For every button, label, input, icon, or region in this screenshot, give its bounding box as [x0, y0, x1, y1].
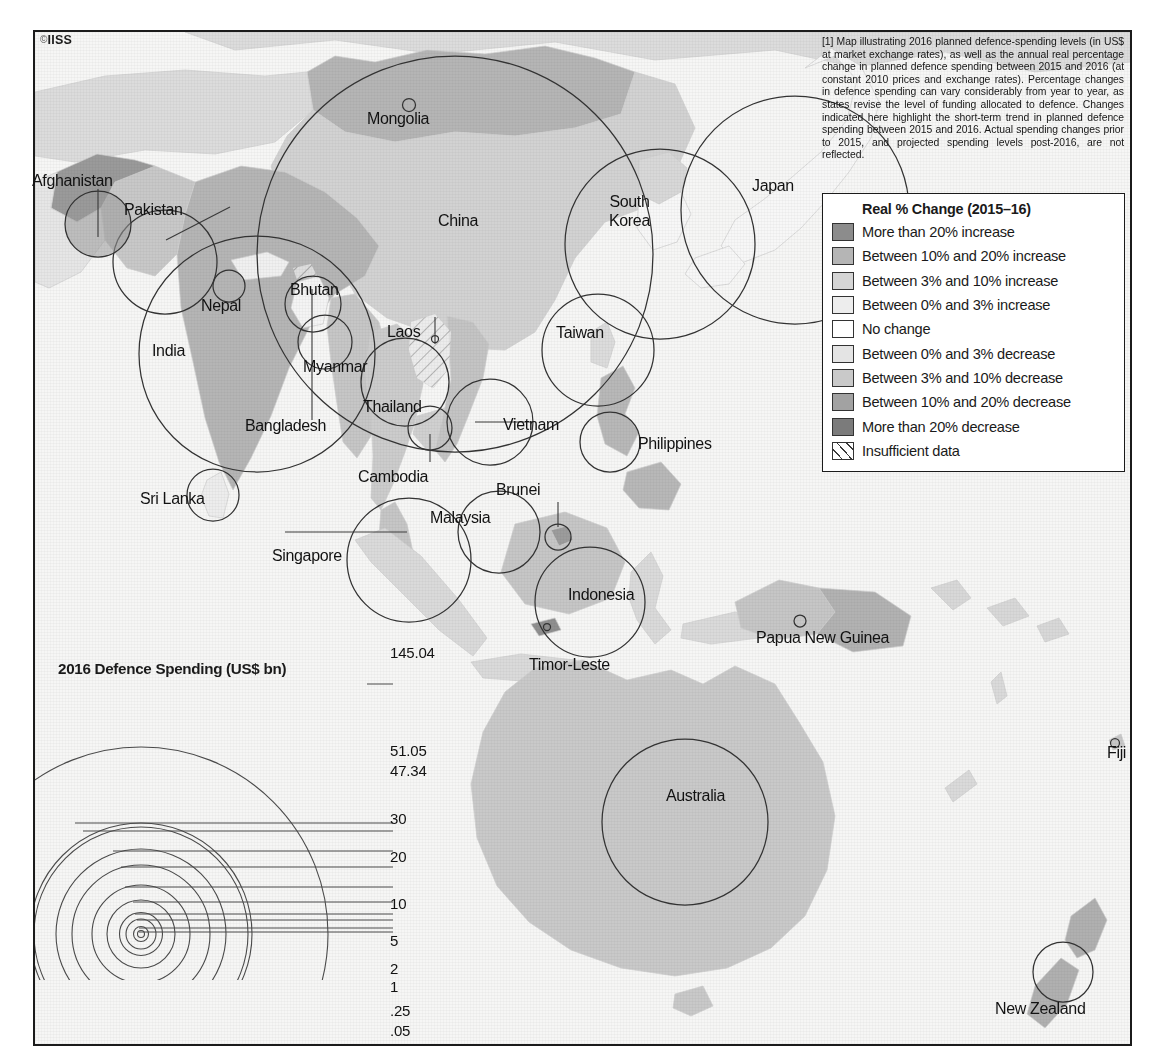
map-page: ©IISS [1] Map illustrating 2016 planned … — [0, 0, 1149, 1054]
country-label-australia: Australia — [666, 787, 725, 805]
map-frame — [33, 30, 1132, 1046]
country-label-south-korea-text: SouthKorea — [609, 193, 650, 229]
legend-label-3: Between 0% and 3% increase — [862, 297, 1050, 313]
country-label-laos: Laos — [387, 323, 420, 341]
country-label-japan: Japan — [752, 177, 794, 195]
country-label-singapore: Singapore — [272, 547, 342, 565]
scale-label-2: 2 — [390, 960, 398, 977]
legend-label-5: Between 0% and 3% decrease — [862, 346, 1055, 362]
country-label-brunei: Brunei — [496, 481, 540, 499]
legend-swatch-3 — [832, 296, 854, 314]
legend-row: Between 3% and 10% increase — [832, 269, 1115, 293]
country-label-nepal: Nepal — [201, 297, 241, 315]
scale-label-47: 47.34 — [390, 762, 427, 779]
country-label-timor-leste: Timor-Leste — [529, 656, 610, 674]
scale-label-1: 1 — [390, 978, 398, 995]
scale-label-005: .05 — [390, 1022, 410, 1039]
legend-rows: More than 20% increaseBetween 10% and 20… — [832, 220, 1115, 463]
country-label-taiwan: Taiwan — [556, 324, 604, 342]
legend-swatch-8 — [832, 418, 854, 436]
scale-circle-47 — [35, 827, 248, 980]
scale-key-title: 2016 Defence Spending (US$ bn) — [58, 660, 286, 677]
country-label-mongolia: Mongolia — [367, 110, 429, 128]
scale-label-20: 20 — [390, 848, 406, 865]
scale-circle-5 — [107, 900, 175, 968]
country-label-bangladesh: Bangladesh — [245, 417, 326, 435]
country-label-pakistan: Pakistan — [124, 201, 183, 219]
country-label-sri-lanka: Sri Lanka — [140, 490, 204, 508]
legend-row: Between 0% and 3% decrease — [832, 341, 1115, 365]
country-label-south-korea: SouthKorea — [609, 193, 650, 230]
change-legend: Real % Change (2015–16) More than 20% in… — [822, 193, 1125, 472]
copyright-icon: © — [40, 34, 48, 45]
country-label-afghanistan: Afghanistan — [32, 172, 113, 190]
legend-row: Between 10% and 20% decrease — [832, 390, 1115, 414]
country-label-cambodia: Cambodia — [358, 468, 428, 486]
map-footnote: [1] Map illustrating 2016 planned defenc… — [822, 36, 1124, 162]
scale-circle-1 — [126, 919, 156, 949]
legend-row: Between 10% and 20% increase — [832, 244, 1115, 268]
country-label-bhutan: Bhutan — [290, 281, 339, 299]
country-label-china: China — [438, 212, 478, 230]
legend-label-1: Between 10% and 20% increase — [862, 248, 1066, 264]
credit-text: IISS — [48, 33, 72, 47]
legend-row: Insufficient data — [832, 439, 1115, 463]
scale-label-5: 5 — [390, 932, 398, 949]
scale-label-025: .25 — [390, 1002, 410, 1019]
country-label-new-zealand: New Zealand — [995, 1000, 1085, 1018]
scale-tick-lines — [75, 684, 393, 932]
legend-row: No change — [832, 317, 1115, 341]
scale-label-30: 30 — [390, 810, 406, 827]
country-label-india: India — [152, 342, 185, 360]
scale-label-51: 51.05 — [390, 742, 427, 759]
legend-row: More than 20% decrease — [832, 414, 1115, 438]
scale-label-10: 10 — [390, 895, 406, 912]
legend-swatch-9 — [832, 442, 854, 460]
legend-swatch-1 — [832, 247, 854, 265]
legend-swatch-7 — [832, 393, 854, 411]
legend-title: Real % Change (2015–16) — [862, 201, 1115, 217]
legend-label-8: More than 20% decrease — [862, 419, 1020, 435]
scale-circle-20 — [72, 865, 210, 980]
country-label-fiji: Fiji — [1107, 744, 1126, 762]
country-label-malaysia: Malaysia — [430, 509, 490, 527]
legend-swatch-5 — [832, 345, 854, 363]
scale-circle-025 — [134, 927, 149, 942]
scale-label-145: 145.04 — [390, 644, 435, 661]
legend-swatch-4 — [832, 320, 854, 338]
legend-swatch-0 — [832, 223, 854, 241]
legend-swatch-6 — [832, 369, 854, 387]
country-label-myanmar: Myanmar — [303, 358, 367, 376]
legend-row: Between 3% and 10% decrease — [832, 366, 1115, 390]
legend-row: Between 0% and 3% increase — [832, 293, 1115, 317]
legend-label-4: No change — [862, 321, 930, 337]
scale-circle-145 — [35, 747, 328, 980]
country-label-philippines: Philippines — [638, 435, 712, 453]
legend-label-2: Between 3% and 10% increase — [862, 273, 1058, 289]
legend-label-0: More than 20% increase — [862, 224, 1015, 240]
country-label-indonesia: Indonesia — [568, 586, 634, 604]
legend-label-6: Between 3% and 10% decrease — [862, 370, 1063, 386]
legend-label-9: Insufficient data — [862, 443, 960, 459]
country-label-vietnam: Vietnam — [503, 416, 559, 434]
legend-row: More than 20% increase — [832, 220, 1115, 244]
country-label-thailand: Thailand — [363, 398, 422, 416]
legend-swatch-2 — [832, 272, 854, 290]
country-label-papua-new-guinea: Papua New Guinea — [756, 629, 889, 647]
legend-label-7: Between 10% and 20% decrease — [862, 394, 1071, 410]
iiss-credit: ©IISS — [40, 33, 72, 47]
